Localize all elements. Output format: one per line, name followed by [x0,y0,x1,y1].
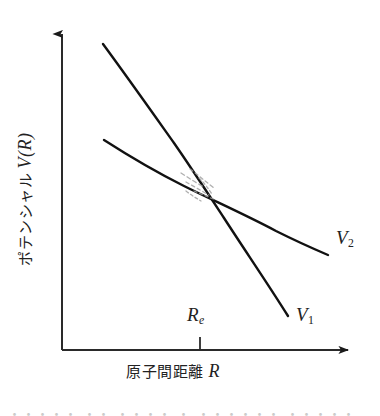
x-axis-label: 原子間距離R [126,362,220,380]
y-axis-label: ポテンシャルV(R) [16,59,42,339]
x-axis-label-symbol: R [204,361,221,381]
potential-curve-figure: ポテンシャルV(R) 原子間距離R Re V1 V2 ・・・・・ ・・ ・・・・… [0,0,380,416]
curve-label-v2: V2 [336,228,354,249]
tick-label-re: Re [187,305,204,326]
curve-label-v2-base: V [336,227,348,248]
curve-v1 [103,44,288,316]
curve-label-v2-sub: 2 [348,237,354,250]
curve-v2 [104,140,328,255]
curve-label-v1-sub: 1 [308,314,314,327]
tick-label-re-base: R [187,304,199,325]
curve-label-v1-base: V [296,304,308,325]
plot-canvas [0,0,380,416]
x-axis-label-jp: 原子間距離 [126,363,204,381]
tick-label-re-sub: e [199,314,205,327]
y-axis-label-symbol: V(R) [15,133,35,173]
bottom-caption-sliver: ・・・・・ ・・ ・・・・ ・ ・・・・・・ ・・・・・ [8,404,372,416]
curve-label-v1: V1 [296,305,314,326]
y-axis-label-jp: ポテンシャル [17,173,35,266]
